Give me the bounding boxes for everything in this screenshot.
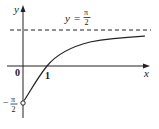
y-axis-arrow-icon — [21, 5, 26, 12]
asymptote-label-numerator: π — [84, 8, 88, 17]
function-graph: y x 0 1 − π 2 y = π 2 — [0, 0, 159, 129]
asymptote-label-equals: = — [74, 12, 80, 24]
asymptote-label-denominator: 2 — [85, 18, 89, 27]
y-tick-denominator: 2 — [12, 105, 16, 114]
y-tick-numerator: π — [11, 95, 15, 104]
x-tick-label-1: 1 — [45, 70, 50, 81]
y-axis-label: y — [13, 3, 19, 15]
open-point-marker — [21, 101, 25, 105]
y-tick-sign: − — [3, 97, 9, 108]
x-axis-label: x — [143, 67, 149, 79]
asymptote-label-lhs: y — [64, 12, 70, 24]
origin-label: 0 — [15, 67, 20, 78]
function-curve — [24, 36, 145, 101]
